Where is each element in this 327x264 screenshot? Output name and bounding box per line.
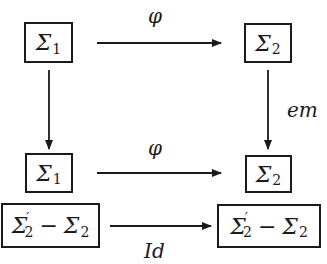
node-mid-left: Σ1: [25, 153, 73, 193]
node-mid-right: Σ2: [245, 155, 292, 193]
node-subscript-2: 2: [80, 224, 89, 240]
node-symbol: Σ: [36, 161, 52, 186]
edge-label-em: em: [287, 100, 318, 120]
node-subscript: 2: [272, 172, 281, 188]
node-minus: −: [258, 214, 276, 239]
node-subscript: 2: [272, 41, 281, 57]
node-subscript: 1: [52, 41, 61, 57]
node-minus: −: [39, 213, 57, 238]
node-top-right: Σ2: [244, 23, 292, 63]
edge-label-phi-top: φ: [148, 6, 162, 26]
node-symbol-2: Σ: [282, 214, 298, 239]
node-subscript: 2: [24, 224, 33, 240]
node-bottom-left: Σ′2−Σ2: [1, 203, 100, 248]
edge-label-phi-middle: φ: [148, 138, 162, 158]
edge-label-id: Id: [144, 241, 165, 261]
node-symbol: Σ: [255, 31, 271, 56]
node-top-left: Σ1: [24, 22, 73, 63]
node-symbol-2: Σ: [64, 213, 80, 238]
node-symbol: Σ: [256, 162, 272, 187]
node-bottom-right: Σ′2−Σ2: [217, 204, 321, 248]
node-symbol: Σ: [36, 30, 52, 55]
node-subscript: 2: [243, 224, 252, 240]
node-subscript-2: 2: [299, 224, 308, 240]
node-subscript: 1: [53, 171, 62, 187]
